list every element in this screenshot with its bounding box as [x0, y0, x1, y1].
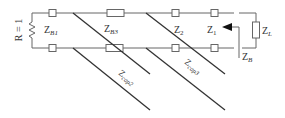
z1-label: Z1	[207, 24, 217, 37]
zb3-label: ZB3	[104, 23, 118, 36]
zb1-label: ZB1	[44, 24, 58, 37]
z1-top-element	[211, 10, 218, 17]
zb3-top-element	[107, 10, 124, 17]
zcap3-label: Zcap3	[182, 57, 204, 77]
zcap2-line-bottom	[73, 48, 150, 110]
zcap2-line-top	[73, 13, 150, 74]
port-arrow-line	[232, 27, 239, 58]
port-arrow-icon	[222, 23, 232, 31]
resistor-label: R = 1	[13, 19, 24, 41]
z1-bottom-element	[211, 45, 218, 52]
zl-label: ZL	[262, 25, 272, 38]
zb1-top-element	[49, 10, 56, 17]
zl-element	[253, 22, 260, 38]
zcap3-line-bottom	[146, 48, 225, 110]
zb-label: ZB	[242, 51, 253, 64]
z2-top-element	[172, 10, 179, 17]
circuit-diagram: R = 1 ZB1 ZB3 Z2 Z1 ZL ZB Zcap2 Zcap3	[0, 0, 285, 118]
resistor-r1-icon	[29, 22, 35, 38]
z2-bottom-element	[172, 45, 179, 52]
zb1-bottom-element	[49, 45, 56, 52]
